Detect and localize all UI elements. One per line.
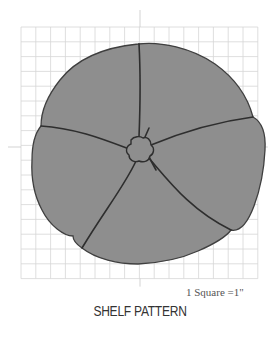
center-hub: [127, 137, 154, 162]
pattern-title: SHELF PATTERN: [20, 303, 261, 319]
scale-label: 1 Square =1": [186, 286, 266, 298]
